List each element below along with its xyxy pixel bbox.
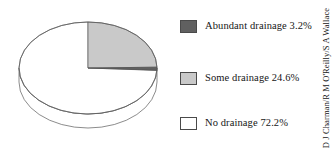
- legend-item-no-drainage: No drainage 72.2%: [180, 117, 288, 130]
- legend-label-abundant-drainage: Abundant drainage 3.2%: [205, 21, 312, 32]
- pie-slice-some-drainage: [88, 22, 157, 68]
- legend-item-some-drainage: Some drainage 24.6%: [180, 72, 299, 85]
- pie-chart-svg: [8, 12, 176, 148]
- legend-swatch-abundant-drainage: [180, 20, 197, 33]
- legend-swatch-no-drainage: [180, 117, 197, 130]
- legend-label-some-drainage: Some drainage 24.6%: [205, 73, 299, 84]
- credit-text: D J Charman/R M O'Reilly/S A Wallace: [321, 8, 331, 148]
- pie-chart: [8, 12, 176, 148]
- chart-legend: Abundant drainage 3.2% Some drainage 24.…: [180, 16, 312, 144]
- legend-swatch-some-drainage: [180, 72, 197, 85]
- legend-label-no-drainage: No drainage 72.2%: [205, 118, 288, 129]
- credit-container: D J Charman/R M O'Reilly/S A Wallace: [318, 0, 334, 156]
- pie-chart-figure: Abundant drainage 3.2% Some drainage 24.…: [0, 0, 335, 156]
- legend-item-abundant-drainage: Abundant drainage 3.2%: [180, 20, 312, 33]
